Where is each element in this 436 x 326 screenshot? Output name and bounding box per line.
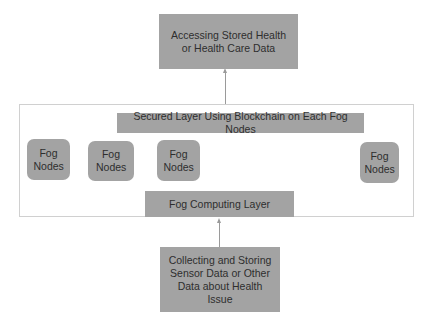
connector-line-top [225,72,226,104]
top-box-label: Accessing Stored Health or Health Care D… [167,29,290,55]
top-box-accessing-data: Accessing Stored Health or Health Care D… [159,14,298,69]
fog-node-4: Fog Nodes [360,142,399,183]
bottom-box-label: Collecting and Storing Sensor Data or Ot… [166,254,274,306]
secured-layer-label: Secured Layer Using Blockchain on Each F… [117,110,364,136]
fog-computing-layer-bar: Fog Computing Layer [145,191,294,217]
arrowhead-up-icon [217,218,221,223]
secured-layer-bar: Secured Layer Using Blockchain on Each F… [117,113,364,133]
fog-node-label: Fog Nodes [164,148,194,174]
fog-node-3: Fog Nodes [157,140,200,181]
bottom-box-collecting-data: Collecting and Storing Sensor Data or Ot… [160,247,280,312]
fog-node-label: Fog Nodes [34,147,64,173]
fog-node-label: Fog Nodes [365,150,395,176]
fog-node-2: Fog Nodes [88,141,134,181]
connector-line-bottom [219,222,220,247]
fog-node-1: Fog Nodes [27,139,70,180]
fog-computing-layer-label: Fog Computing Layer [169,198,270,211]
fog-node-label: Fog Nodes [96,148,126,174]
